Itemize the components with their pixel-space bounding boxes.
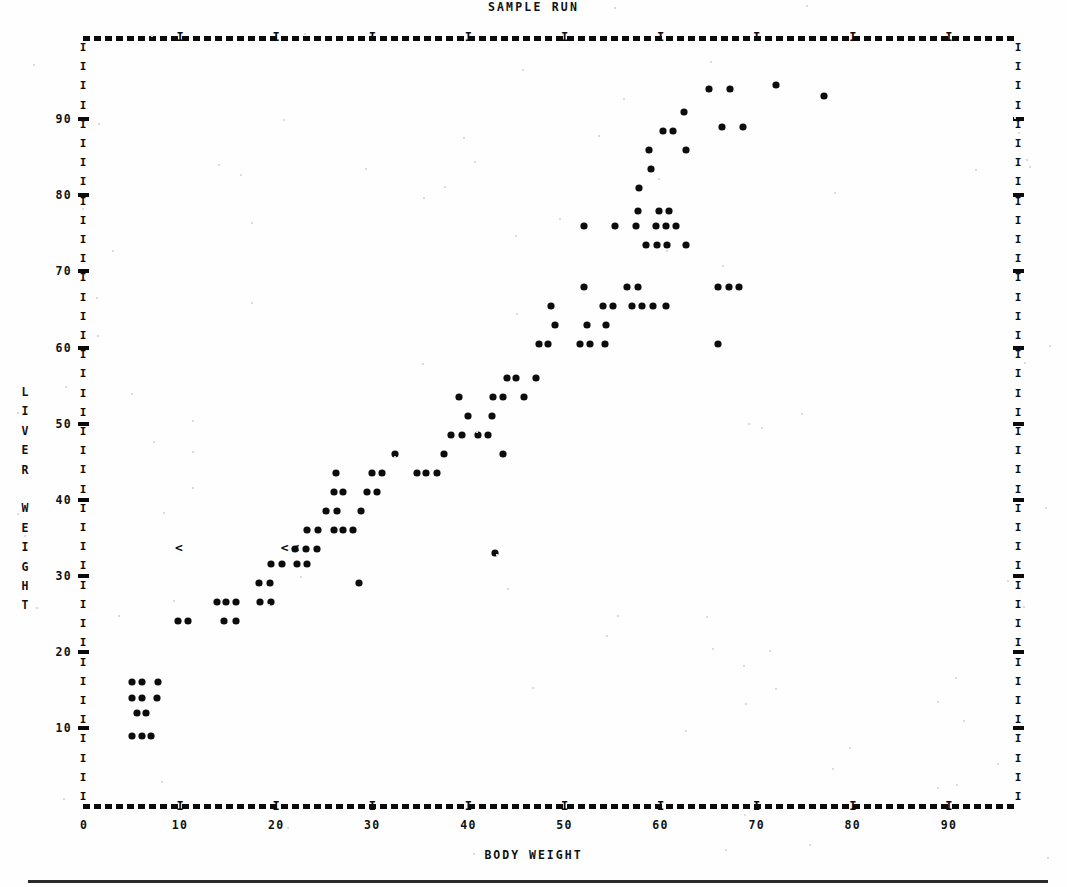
x-tick-label: 10 (162, 818, 198, 832)
scan-speckle (98, 123, 100, 125)
data-point (267, 560, 275, 568)
data-point (174, 617, 182, 625)
scan-speckle (1018, 132, 1020, 134)
y-tick-left (78, 346, 89, 350)
scan-speckle (192, 420, 194, 422)
scan-speckle (1026, 159, 1028, 161)
data-point (433, 469, 441, 477)
scan-speckle (153, 441, 155, 443)
axis-top-rule (83, 36, 1018, 41)
x-tick-bottom: I (848, 800, 857, 812)
data-point (512, 374, 520, 382)
y-tick-right (1013, 422, 1024, 426)
data-point (339, 488, 347, 496)
data-point (632, 222, 640, 230)
scan-speckle (745, 703, 747, 705)
scan-speckle (300, 576, 302, 578)
data-point (303, 560, 311, 568)
scan-speckle (522, 69, 524, 71)
page-title: SAMPLE RUN (0, 0, 1067, 14)
data-point (256, 598, 264, 606)
scan-speckle (1023, 606, 1025, 608)
data-point (278, 560, 286, 568)
axis-bottom-rule (83, 804, 1018, 809)
scan-speckle (97, 335, 99, 337)
scan-speckle (163, 512, 165, 514)
data-point (682, 241, 690, 249)
scan-speckle (192, 451, 194, 453)
scan-speckle (283, 119, 285, 121)
x-tick-label: 60 (643, 818, 679, 832)
data-point (649, 302, 657, 310)
scan-speckle (251, 302, 253, 304)
scan-speckle (710, 61, 712, 63)
scan-speckle (365, 168, 367, 170)
x-tick-bottom: I (464, 800, 473, 812)
data-point (363, 488, 371, 496)
scan-speckle (748, 423, 750, 425)
scan-speckle (112, 250, 114, 252)
x-tick-label: 40 (450, 818, 486, 832)
data-point (772, 81, 780, 89)
scan-speckle (532, 687, 534, 689)
scan-speckle (666, 250, 668, 252)
data-point (602, 321, 610, 329)
scan-speckle (287, 827, 289, 829)
scan-speckle (63, 798, 65, 800)
data-point (220, 617, 228, 625)
scan-speckle (131, 393, 133, 395)
data-point (544, 340, 552, 348)
y-tick-label: 70 (38, 264, 72, 278)
scan-speckle (706, 616, 708, 618)
data-point (547, 302, 555, 310)
data-point (586, 340, 594, 348)
data-point (682, 146, 690, 154)
y-tick-label: 50 (38, 417, 72, 431)
y-axis-title: L I V E R W E I G H T (18, 383, 32, 616)
scan-speckle (614, 7, 616, 9)
data-point (373, 488, 381, 496)
y-tick-label: 30 (38, 569, 72, 583)
scan-speckle (725, 849, 727, 851)
y-tick-left (78, 117, 89, 121)
x-tick-label: 0 (66, 818, 102, 832)
scan-speckle (476, 431, 478, 433)
y-tick-left (78, 422, 89, 426)
scan-speckle (1014, 117, 1016, 119)
y-tick-right (1013, 650, 1024, 654)
scan-speckle (304, 33, 306, 35)
data-point (669, 127, 677, 135)
data-point (718, 123, 726, 131)
scan-speckle (832, 768, 834, 770)
data-point (714, 340, 722, 348)
data-point (532, 374, 540, 382)
data-point (303, 526, 311, 534)
x-tick-label: 90 (931, 818, 967, 832)
data-point (222, 598, 230, 606)
scan-speckle (33, 64, 35, 66)
y-tick-left (78, 269, 89, 273)
scan-speckle (761, 427, 763, 429)
x-tick-top: I (368, 31, 377, 43)
x-tick-label: 20 (258, 818, 294, 832)
data-point (735, 283, 743, 291)
y-tick-label: 90 (38, 112, 72, 126)
data-point (645, 146, 653, 154)
printout-page: SAMPLE RUN I I I I I I I I I I I I I I I… (0, 0, 1067, 887)
data-point (726, 85, 734, 93)
overlap-marker: < (291, 543, 299, 553)
scan-speckle (515, 235, 517, 237)
data-point (580, 222, 588, 230)
scan-speckle (268, 604, 270, 606)
data-point (355, 579, 363, 587)
data-point (266, 579, 274, 587)
data-point (714, 283, 722, 291)
data-point (128, 678, 136, 686)
data-point (623, 283, 631, 291)
data-point (447, 431, 455, 439)
overlap-marker: < (281, 543, 289, 553)
scan-speckle (118, 615, 120, 617)
scan-speckle (743, 665, 745, 667)
data-point (659, 127, 667, 135)
y-tick-right (1013, 498, 1024, 502)
